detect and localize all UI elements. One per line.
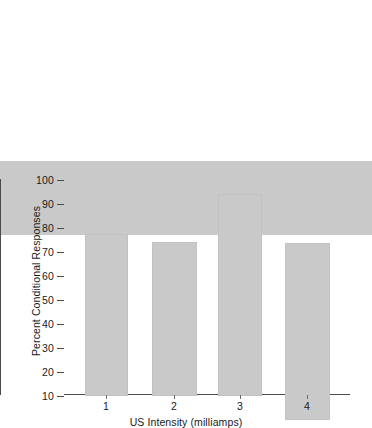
x-axis-title: US Intensity (milliamps) [0,416,372,428]
y-tick-label-10: 10 [28,390,54,402]
x-tick-label-1: 1 [91,400,121,412]
y-tick-label-30: 30 [28,342,54,354]
y-axis-line [0,179,1,395]
y-tick-50 [57,300,64,301]
y-tick-30 [57,348,64,349]
y-tick-100 [57,180,64,181]
y-tick-70 [57,252,64,253]
bar-4 [285,243,330,420]
x-tick-label-4: 4 [292,400,322,412]
bar-chart-figure: Percent Conditional Responses 100 90 80 … [0,161,372,235]
y-tick-label-90: 90 [28,198,54,210]
y-tick-60 [57,276,64,277]
x-tick-4 [307,395,308,399]
y-tick-10 [57,396,64,397]
y-tick-label-40: 40 [28,318,54,330]
y-tick-20 [57,372,64,373]
y-tick-label-70: 70 [28,246,54,258]
y-tick-label-100: 100 [28,174,54,186]
y-tick-90 [57,204,64,205]
x-tick-2 [174,395,175,399]
x-tick-1 [106,395,107,399]
x-tick-label-2: 2 [159,400,189,412]
y-tick-label-60: 60 [28,270,54,282]
y-tick-40 [57,324,64,325]
y-tick-label-80: 80 [28,222,54,234]
bar-2 [152,242,197,396]
bar-3 [218,194,262,396]
y-tick-label-50: 50 [28,294,54,306]
x-tick-3 [240,395,241,399]
y-tick-label-20: 20 [28,366,54,378]
x-tick-label-3: 3 [225,400,255,412]
bar-1 [85,234,128,396]
y-tick-80 [57,228,64,229]
